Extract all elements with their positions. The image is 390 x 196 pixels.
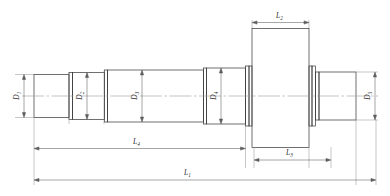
dimension-label-D2: D2 — [76, 92, 83, 100]
dimension-label-L1: L1 — [184, 169, 191, 176]
dimension-label-D5: D5 — [364, 92, 371, 100]
dimension-label-L4: L4 — [133, 138, 140, 145]
dimension-L2 — [252, 21, 309, 24]
dimension-label-L3: L3 — [286, 149, 293, 156]
shaft-collar-flange — [252, 29, 309, 148]
dimension-label-D4: D4 — [210, 92, 217, 100]
shaft-outline-svg — [0, 0, 390, 196]
dimension-L4 — [34, 147, 246, 150]
drawing-canvas: D1 D2 D3 D4 D5 L2 L4 L3 L1 — [0, 0, 390, 196]
dimension-label-D1: D1 — [13, 92, 20, 100]
dimension-label-D3: D3 — [131, 92, 138, 100]
dimension-L1 — [34, 120, 376, 185]
dimension-label-L2: L2 — [276, 12, 283, 19]
dimension-network — [15, 20, 378, 185]
